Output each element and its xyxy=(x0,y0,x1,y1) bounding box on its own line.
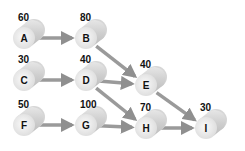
node-B: B80 xyxy=(75,12,107,49)
edge-G-H xyxy=(99,126,132,128)
node-value: 60 xyxy=(18,12,30,23)
edge-D-E xyxy=(99,81,132,84)
node-label: G xyxy=(82,120,90,131)
node-H: H70 xyxy=(135,102,167,139)
node-label: F xyxy=(21,120,27,131)
edges-layer xyxy=(37,38,195,128)
nodes-layer: A60B80C30D40E40F50G100H70I30 xyxy=(13,12,227,139)
node-label: D xyxy=(82,75,89,86)
node-F: F50 xyxy=(13,99,45,136)
node-value: 30 xyxy=(18,54,30,65)
node-C: C30 xyxy=(13,54,45,91)
node-value: 40 xyxy=(80,54,92,65)
node-label: H xyxy=(142,123,149,134)
node-value: 80 xyxy=(80,12,92,23)
node-E: E40 xyxy=(135,59,167,96)
node-value: 30 xyxy=(200,102,212,113)
node-I: I30 xyxy=(195,102,227,139)
node-label: C xyxy=(20,75,27,86)
node-label: B xyxy=(82,33,89,44)
node-value: 100 xyxy=(80,99,97,110)
network-diagram: A60B80C30D40E40F50G100H70I30 xyxy=(0,0,245,151)
node-value: 70 xyxy=(140,102,152,113)
node-label: A xyxy=(20,33,27,44)
node-A: A60 xyxy=(13,12,45,49)
node-label: I xyxy=(205,123,208,134)
node-value: 40 xyxy=(140,59,152,70)
node-G: G100 xyxy=(75,99,107,136)
node-D: D40 xyxy=(75,54,107,91)
node-value: 50 xyxy=(18,99,30,110)
node-label: E xyxy=(143,80,150,91)
